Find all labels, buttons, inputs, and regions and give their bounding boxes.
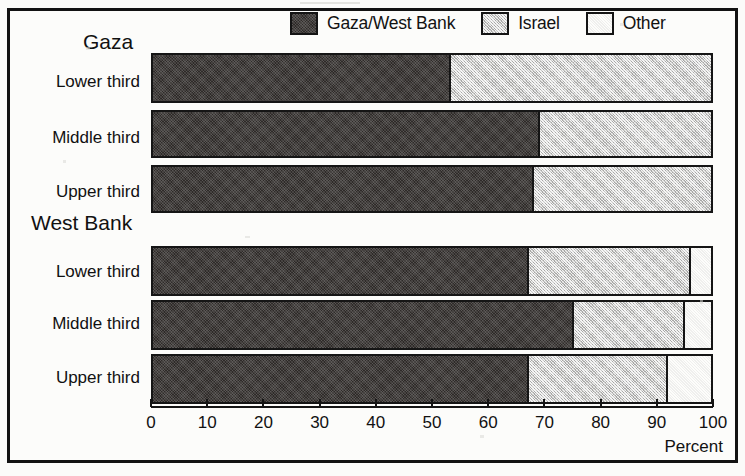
bar-segment-gaza-west-bank [153,167,532,211]
x-axis-tick-label: 0 [146,413,155,433]
legend-swatch-dark-icon [290,12,318,35]
group-title-west-bank: West Bank [31,211,132,235]
legend-item-other: Other [586,12,666,35]
bar-segment-gaza-west-bank [153,248,527,294]
x-axis-tick [150,399,152,407]
table-row [151,110,713,158]
row-label-wb-upper: Upper third [0,368,140,388]
x-axis-tick [543,399,545,407]
x-axis-caption: Percent [664,437,723,457]
row-label-wb-lower: Lower third [0,262,140,282]
x-axis-tick [375,399,377,407]
x-axis-tick-label: 60 [479,413,498,433]
table-row [151,165,713,213]
x-axis-tick-label: 80 [591,413,610,433]
legend-item-gaza-west-bank: Gaza/West Bank [290,12,455,35]
x-axis-tick-label: 90 [647,413,666,433]
row-label-gaza-lower: Lower third [0,72,140,92]
legend-label-israel: Israel [518,13,560,34]
x-axis-tick [600,399,602,407]
x-axis-tick-label: 40 [366,413,385,433]
x-axis-tick [431,399,433,407]
table-row [151,300,713,350]
legend-swatch-mid-icon [481,12,509,35]
bar-segment-israel [538,112,711,156]
bar-segment-gaza-west-bank [153,356,527,402]
bar-segment-israel [449,55,711,101]
x-axis-tick [487,399,489,407]
x-axis-tick-label: 70 [535,413,554,433]
legend-item-israel: Israel [481,12,560,35]
x-axis-tick [319,399,321,407]
table-row [151,53,713,103]
x-axis-tick-label: 30 [310,413,329,433]
group-title-gaza: Gaza [83,30,133,54]
bar-segment-israel [532,167,711,211]
legend-label-other: Other [623,13,666,34]
bar-segment-gaza-west-bank [153,112,538,156]
bar-segment-other [689,248,711,294]
bar-segment-israel [527,248,689,294]
bar-segment-other [666,356,711,402]
chart-legend: Gaza/West Bank Israel Other [290,10,666,36]
row-label-gaza-upper: Upper third [0,182,140,202]
row-label-wb-middle: Middle third [0,314,140,334]
x-axis-tick-label: 20 [254,413,273,433]
bar-segment-other [683,302,711,348]
x-axis-tick-label: 10 [198,413,217,433]
legend-label-gaza-west-bank: Gaza/West Bank [327,13,455,34]
chart-page: Gaza/West Bank Israel Other Gaza West Ba… [0,0,745,476]
bar-segment-israel [572,302,684,348]
x-axis-tick-label: 50 [423,413,442,433]
bar-segment-gaza-west-bank [153,302,572,348]
x-axis-tick [656,399,658,407]
x-axis-tick [712,399,714,407]
bar-segment-israel [527,356,667,402]
x-axis-tick [206,399,208,407]
bar-segment-gaza-west-bank [153,55,449,101]
table-row [151,354,713,404]
x-axis-tick [262,399,264,407]
legend-swatch-light-icon [586,12,614,35]
table-row [151,246,713,296]
row-label-gaza-middle: Middle third [0,128,140,148]
x-axis-tick-label: 100 [699,413,727,433]
